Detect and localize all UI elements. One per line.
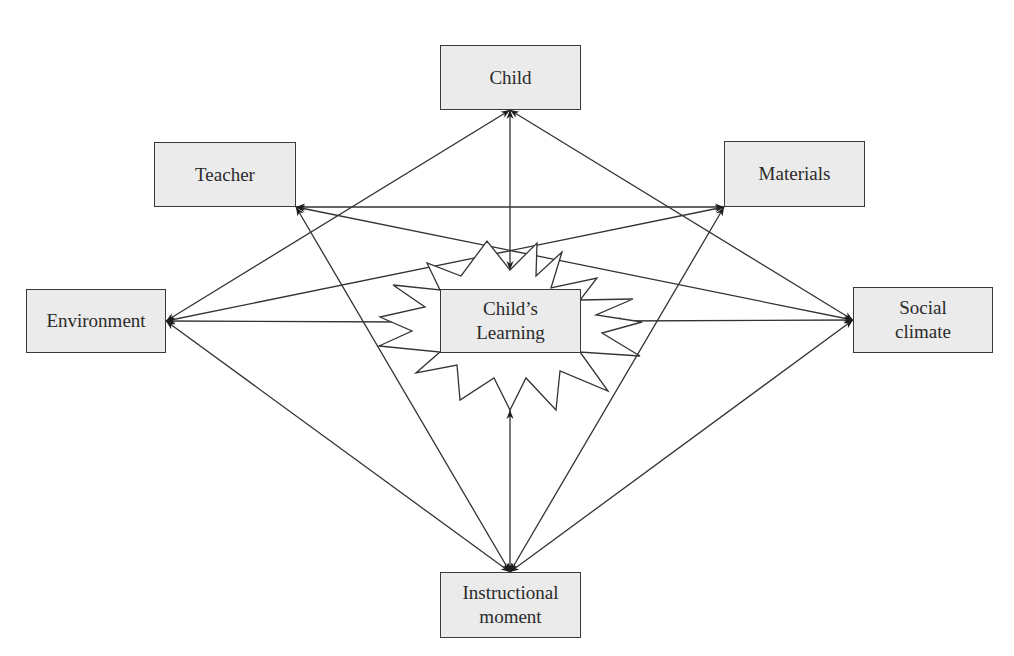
edge-environment-learning <box>166 321 410 322</box>
node-childs-learning: Child’s Learning <box>440 289 581 353</box>
edge-social-learning <box>612 320 853 321</box>
node-materials: Materials <box>724 141 865 207</box>
node-teacher: Teacher <box>154 142 296 207</box>
node-child: Child <box>440 45 581 110</box>
node-environment: Environment <box>26 289 166 353</box>
node-instructional-moment: Instructional moment <box>440 572 581 638</box>
node-social-climate: Social climate <box>853 287 993 353</box>
